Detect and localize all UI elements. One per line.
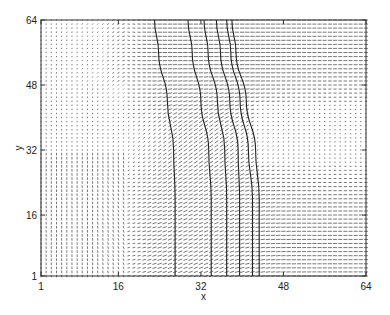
- vector-field: [41, 20, 368, 277]
- x-tick-label: 16: [113, 281, 125, 292]
- y-axis-label: y: [13, 146, 24, 151]
- x-tick-label: 64: [360, 281, 372, 292]
- arrow: [41, 20, 368, 277]
- contour-line: [204, 20, 227, 276]
- y-tick-label: 1: [31, 271, 37, 282]
- y-tick-label: 64: [26, 15, 38, 26]
- y-tick-label: 48: [26, 80, 38, 91]
- x-axis-label: x: [201, 291, 206, 302]
- contour-lines: [155, 20, 260, 276]
- contour-line: [232, 20, 259, 276]
- x-tick-label: 1: [38, 281, 44, 292]
- y-tick-label: 16: [26, 210, 38, 221]
- y-axis-ticks: 116324864: [26, 15, 366, 282]
- contour-line: [188, 20, 211, 276]
- contour-line: [155, 20, 176, 276]
- quiver-chart: 116324864 116324864 x y: [0, 0, 390, 315]
- plot-frame: [41, 20, 366, 276]
- x-tick-label: 48: [278, 281, 290, 292]
- y-tick-label: 32: [26, 145, 38, 156]
